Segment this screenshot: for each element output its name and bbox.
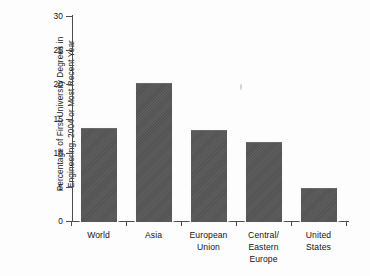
x-axis-label: World <box>71 229 126 241</box>
y-tick-mark <box>66 16 72 17</box>
x-axis-label: Central/EasternEurope <box>236 229 291 266</box>
y-tick-mark <box>66 50 72 51</box>
bar-central-eastern-europe <box>246 142 282 222</box>
x-tick-mark <box>126 221 127 226</box>
x-tick-mark <box>346 221 347 226</box>
y-tick-label: 10 <box>23 148 63 158</box>
y-tick-mark <box>66 187 72 188</box>
y-tick-mark <box>66 119 72 120</box>
y-tick-label: 15 <box>23 114 63 124</box>
x-axis-label-line: Central/ <box>236 229 291 241</box>
x-axis-label-line: European <box>181 229 236 241</box>
y-axis-line <box>72 15 73 222</box>
x-axis-label-line: Union <box>181 241 236 253</box>
x-axis-label-line: Europe <box>236 253 291 265</box>
bar-european-union <box>191 130 227 222</box>
x-axis-label: Asia <box>126 229 181 241</box>
x-tick-mark <box>291 221 292 226</box>
scan-artifact-speck <box>240 84 242 90</box>
x-axis-label: EuropeanUnion <box>181 229 236 253</box>
x-tick-mark <box>236 221 237 226</box>
bar-chart-figure: Percentage of First University Degrees i… <box>0 0 370 276</box>
x-axis-label-line: Eastern <box>236 241 291 253</box>
x-axis-label-line: Asia <box>126 229 181 241</box>
x-tick-mark <box>71 221 72 226</box>
y-tick-mark <box>66 84 72 85</box>
bar-asia <box>136 83 172 222</box>
bar-united-states <box>301 188 337 222</box>
x-axis-label-line: World <box>71 229 126 241</box>
x-axis-label-line: United <box>291 229 346 241</box>
x-tick-mark <box>181 221 182 226</box>
x-axis-label-line: States <box>291 241 346 253</box>
y-tick-label: 5 <box>23 182 63 192</box>
bar-world <box>81 128 117 222</box>
y-tick-label: 0 <box>23 216 63 226</box>
y-tick-label: 20 <box>23 79 63 89</box>
y-tick-mark <box>66 153 72 154</box>
x-axis-label: UnitedStates <box>291 229 346 253</box>
y-tick-label: 30 <box>23 11 63 21</box>
y-tick-label: 25 <box>23 45 63 55</box>
